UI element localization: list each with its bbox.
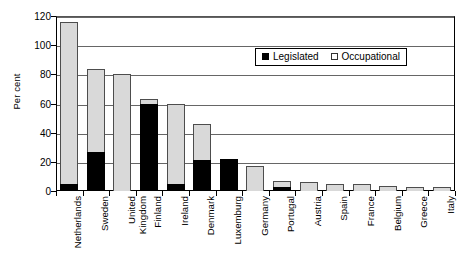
y-tick-label: 120 — [11, 11, 51, 22]
x-axis-label: United Kingdom — [127, 196, 148, 258]
x-axis-label: Finland — [153, 196, 164, 258]
gridline — [57, 134, 454, 135]
y-tick-label: 0 — [11, 186, 51, 197]
x-axis-label: Denmark — [206, 196, 217, 258]
y-tick-label: 80 — [11, 69, 51, 80]
x-axis-label: Italy — [446, 196, 457, 258]
legend-label-occupational: Occupational — [342, 51, 400, 62]
x-axis-label: Belgium — [393, 196, 404, 258]
bar-chart: Per cent 020406080100120 NetherlandsSwed… — [0, 0, 471, 263]
x-axis-label: Greece — [419, 196, 430, 258]
x-axis-label: Spain — [339, 196, 350, 258]
x-axis-label: Portugal — [286, 196, 297, 258]
y-tick-label: 60 — [11, 98, 51, 109]
y-axis-title: Per cent — [11, 52, 22, 132]
x-axis-label: Luxemburg — [233, 196, 244, 258]
y-tick-label: 100 — [11, 40, 51, 51]
y-tick-label: 40 — [11, 127, 51, 138]
gridline — [57, 163, 454, 164]
x-axis-label: Austria — [313, 196, 324, 258]
x-axis-label: Germany — [260, 196, 271, 258]
legend-label-legislated: Legislated — [273, 51, 319, 62]
filled-square-icon — [262, 53, 269, 60]
x-axis-labels: NetherlandsSwedenUnited KingdomFinlandIr… — [56, 196, 455, 262]
chart-legend: Legislated Occupational — [255, 48, 407, 66]
plot-area — [56, 16, 455, 191]
open-square-icon — [331, 53, 338, 60]
legend-item-occupational: Occupational — [331, 51, 400, 62]
x-axis-label: Netherlands — [73, 196, 84, 258]
gridline — [57, 75, 454, 76]
x-axis-label: France — [366, 196, 377, 258]
gridline — [57, 17, 454, 18]
y-tick-label: 20 — [11, 156, 51, 167]
gridline — [57, 46, 454, 47]
legend-item-legislated: Legislated — [262, 51, 319, 62]
x-axis-label: Ireland — [180, 196, 191, 258]
gridline — [57, 105, 454, 106]
x-axis-label: Sweden — [100, 196, 111, 258]
